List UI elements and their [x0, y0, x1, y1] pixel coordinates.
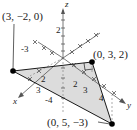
x-tick-2: 2: [41, 74, 46, 84]
y-axis-label: y: [126, 100, 131, 110]
z-tick-2: 2: [56, 25, 61, 35]
y-tick-3: 3: [83, 85, 88, 95]
y-tick-4: 4: [99, 93, 104, 103]
vertex-label-3: (0, 5, −3): [47, 116, 88, 129]
vertex-point-2: [89, 59, 95, 65]
vertex-label-2: (0, 3, 2): [93, 48, 128, 61]
triangle-3d-diagram: (3, −2, 0) (0, 3, 2) (0, 5, −3) z x y 2 …: [0, 0, 137, 130]
z-tick-neg4: -4: [45, 95, 53, 105]
vertex-label-1: (3, −2, 0): [2, 10, 43, 23]
x-axis-label: x: [12, 96, 17, 106]
vertex-point-3: [109, 121, 115, 127]
y-tick-2: 2: [73, 79, 78, 89]
x-tick-3: 3: [36, 85, 41, 95]
x-tick-neg3: -3: [21, 44, 29, 54]
triangle-face: [13, 62, 112, 124]
z-axis-label: z: [64, 0, 69, 9]
vertex-point-1: [10, 68, 16, 74]
